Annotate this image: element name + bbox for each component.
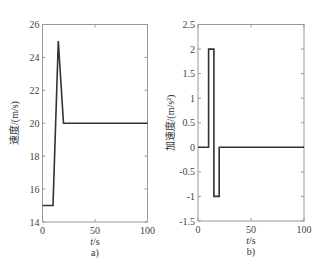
- y-axis-label: 速度/(m/s): [8, 101, 21, 145]
- y-tick-label: 16: [30, 184, 40, 195]
- x-tick-label: 100: [140, 225, 155, 236]
- data-line: [198, 49, 304, 196]
- acceleration-chart: -1.5-1-0.500.511.522.5050100t/sb)加速度/(m/…: [164, 19, 312, 258]
- x-axis-label: t/s: [246, 235, 256, 246]
- chart-canvas: 14161820222426050100t/sa)速度/(m/s) -1.5-1…: [0, 0, 323, 266]
- x-axis-label: t/s: [90, 236, 100, 247]
- y-axis-label: 加速度/(m/s²): [164, 95, 177, 152]
- y-tick-label: 18: [30, 151, 40, 162]
- y-tick-label: 22: [30, 85, 40, 96]
- x-tick-label: 0: [196, 224, 201, 235]
- y-tick-label: -1.5: [179, 216, 195, 227]
- y-tick-label: 24: [30, 52, 40, 63]
- y-tick-label: 14: [30, 217, 40, 228]
- panel-caption: b): [247, 246, 255, 258]
- y-tick-label: 0.5: [183, 117, 196, 128]
- y-tick-label: 2.5: [183, 19, 196, 30]
- y-tick-label: 1.5: [183, 68, 196, 79]
- y-tick-label: -1: [187, 191, 195, 202]
- y-tick-label: 1: [190, 93, 195, 104]
- y-tick-label: -0.5: [179, 166, 195, 177]
- velocity-chart: 14161820222426050100t/sa)速度/(m/s): [8, 19, 155, 259]
- x-tick-label: 100: [297, 224, 312, 235]
- x-tick-label: 50: [246, 224, 256, 235]
- x-tick-label: 0: [40, 225, 45, 236]
- y-tick-label: 20: [30, 118, 40, 129]
- y-tick-label: 2: [190, 44, 195, 55]
- y-tick-label: 0: [190, 142, 195, 153]
- x-tick-label: 50: [90, 225, 100, 236]
- panel-caption: a): [91, 247, 99, 259]
- data-line: [43, 41, 148, 206]
- y-tick-label: 26: [30, 19, 40, 30]
